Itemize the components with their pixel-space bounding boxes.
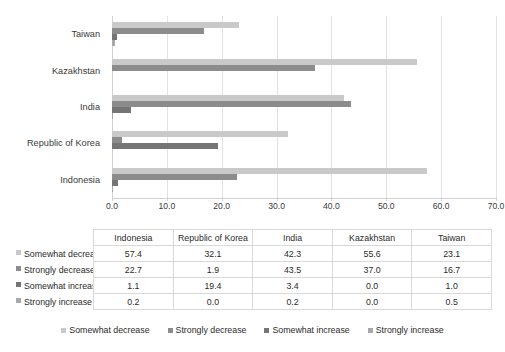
table-row: Somewhat decrease57.432.142.355.623.1 bbox=[14, 246, 492, 262]
table-cell: 19.4 bbox=[173, 278, 253, 294]
table-column-header: Taiwan bbox=[412, 230, 492, 246]
table-column-header: Indonesia bbox=[94, 230, 174, 246]
legend-color-swatch-icon bbox=[168, 328, 173, 333]
x-tick-label: 10.0 bbox=[158, 201, 175, 211]
bar-cluster bbox=[112, 16, 496, 52]
chart-figure: TaiwanKazakhstanIndiaRepublic of KoreaIn… bbox=[0, 0, 505, 352]
table-row-label: Strongly decrease bbox=[24, 265, 94, 275]
gridline bbox=[496, 16, 497, 198]
table-cell: 32.1 bbox=[173, 246, 253, 262]
bar-row bbox=[112, 186, 496, 192]
x-axis-line bbox=[112, 198, 496, 199]
table-cell: 42.3 bbox=[253, 246, 333, 262]
bar-row bbox=[112, 77, 496, 83]
table-cell: 0.0 bbox=[332, 278, 412, 294]
legend-color-swatch-icon bbox=[264, 328, 269, 333]
table-column-header: Kazakhstan bbox=[332, 230, 412, 246]
table-header-row: IndonesiaRepublic of KoreaIndiaKazakhsta… bbox=[14, 230, 492, 246]
table-cell: 43.5 bbox=[253, 262, 333, 278]
bars-plot bbox=[112, 16, 496, 198]
bar-row bbox=[112, 40, 496, 46]
table-cell: 0.2 bbox=[94, 294, 174, 310]
bar-cluster bbox=[112, 162, 496, 198]
table-row: Somewhat increase1.119.43.40.01.0 bbox=[14, 278, 492, 294]
x-tick-label: 40.0 bbox=[323, 201, 340, 211]
table-row: Strongly increase0.20.00.20.00.5 bbox=[14, 294, 492, 310]
x-tick-label: 30.0 bbox=[268, 201, 285, 211]
table-cell: 22.7 bbox=[94, 262, 174, 278]
legend-item-label: Strongly increase bbox=[376, 325, 444, 335]
x-tick-label: 60.0 bbox=[433, 201, 450, 211]
bar bbox=[112, 186, 113, 192]
table-cell: 0.0 bbox=[173, 294, 253, 310]
legend-color-swatch-icon bbox=[61, 328, 66, 333]
bar-clusters bbox=[112, 16, 496, 198]
table-row-label: Strongly increase bbox=[24, 297, 92, 307]
table-cell: 1.9 bbox=[173, 262, 253, 278]
series-color-swatch-icon bbox=[16, 250, 21, 255]
x-tick-label: 20.0 bbox=[213, 201, 230, 211]
series-color-swatch-icon bbox=[16, 266, 21, 271]
table-row-label: Somewhat increase bbox=[24, 281, 94, 291]
y-axis-label: Republic of Korea bbox=[8, 125, 106, 161]
data-table-container: IndonesiaRepublic of KoreaIndiaKazakhsta… bbox=[14, 229, 492, 310]
x-tick-label: 70.0 bbox=[488, 201, 505, 211]
table-row-header: Somewhat decrease bbox=[14, 246, 94, 262]
legend-item[interactable]: Somewhat decrease bbox=[61, 325, 149, 335]
bar bbox=[112, 40, 115, 46]
y-axis-label: Kazakhstan bbox=[8, 52, 106, 88]
series-color-swatch-icon bbox=[16, 298, 21, 303]
series-color-swatch-icon bbox=[16, 282, 21, 287]
table-row-label: Somewhat decrease bbox=[24, 249, 94, 259]
table-cell: 16.7 bbox=[412, 262, 492, 278]
table-column-header: India bbox=[253, 230, 333, 246]
table-cell: 55.6 bbox=[332, 246, 412, 262]
data-table: IndonesiaRepublic of KoreaIndiaKazakhsta… bbox=[14, 229, 492, 310]
bar bbox=[112, 113, 113, 119]
legend-item-label: Somewhat increase bbox=[272, 325, 349, 335]
table-row: Strongly decrease22.71.943.537.016.7 bbox=[14, 262, 492, 278]
legend-item[interactable]: Strongly decrease bbox=[168, 325, 247, 335]
table-cell: 3.4 bbox=[253, 278, 333, 294]
chart-legend: Somewhat decreaseStrongly decreaseSomewh… bbox=[0, 325, 505, 335]
table-cell: 1.1 bbox=[94, 278, 174, 294]
x-tick-label: 0.0 bbox=[106, 201, 118, 211]
bar-cluster bbox=[112, 125, 496, 161]
legend-item[interactable]: Somewhat increase bbox=[264, 325, 349, 335]
bar-row bbox=[112, 149, 496, 155]
table-cell: 1.0 bbox=[412, 278, 492, 294]
table-row-header: Strongly decrease bbox=[14, 262, 94, 278]
y-axis-label: Taiwan bbox=[8, 16, 106, 52]
x-tick-label: 50.0 bbox=[378, 201, 395, 211]
y-axis-category-labels: TaiwanKazakhstanIndiaRepublic of KoreaIn… bbox=[8, 16, 106, 198]
table-column-header: Republic of Korea bbox=[173, 230, 253, 246]
legend-item[interactable]: Strongly increase bbox=[368, 325, 444, 335]
y-axis-label: India bbox=[8, 89, 106, 125]
legend-item-label: Somewhat decrease bbox=[69, 325, 149, 335]
chart-plot-region: TaiwanKazakhstanIndiaRepublic of KoreaIn… bbox=[0, 0, 505, 222]
bar-cluster bbox=[112, 89, 496, 125]
legend-item-label: Strongly decrease bbox=[176, 325, 247, 335]
table-row-header: Somewhat increase bbox=[14, 278, 94, 294]
table-cell: 37.0 bbox=[332, 262, 412, 278]
y-axis-label: Indonesia bbox=[8, 162, 106, 198]
table-cell: 0.5 bbox=[412, 294, 492, 310]
bar-cluster bbox=[112, 52, 496, 88]
table-cell: 23.1 bbox=[412, 246, 492, 262]
bar-row bbox=[112, 113, 496, 119]
table-cell: 0.0 bbox=[332, 294, 412, 310]
table-corner-cell bbox=[14, 230, 94, 246]
table-row-header: Strongly increase bbox=[14, 294, 94, 310]
table-cell: 0.2 bbox=[253, 294, 333, 310]
legend-color-swatch-icon bbox=[368, 328, 373, 333]
table-cell: 57.4 bbox=[94, 246, 174, 262]
x-axis-tick-labels: 0.010.020.030.040.050.060.070.0 bbox=[112, 201, 496, 219]
